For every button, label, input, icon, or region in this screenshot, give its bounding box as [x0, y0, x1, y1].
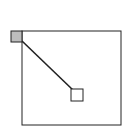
source-cell-a — [11, 31, 22, 42]
target-cell-x — [71, 89, 83, 101]
prediction-block — [22, 31, 121, 125]
prediction-mode-diagram — [0, 0, 127, 133]
